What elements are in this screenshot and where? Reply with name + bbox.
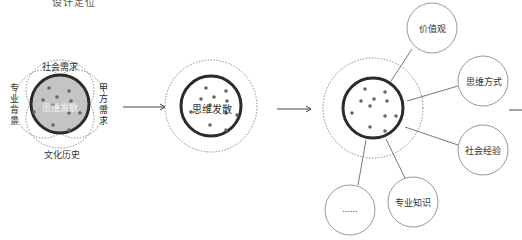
svg-text:......: ...... [342,205,357,214]
stage-3-knowledge-map: 价值观 思维方式 社会经验 专业知识 ...... [323,3,508,235]
stage-2-divergence: 思维发散 [165,60,257,152]
connector-values [391,49,412,81]
factor-label-bottom: 文化历史 [44,149,80,160]
factor-label-top: 社会需求 [42,61,78,72]
satellite-thinking-style: 思维方式 [458,56,508,106]
core-circle [343,78,403,138]
connector-social [405,127,458,145]
connector-thinking [407,86,458,101]
connector-professional [386,139,405,178]
arrow-1 [123,104,165,110]
svg-text:社会经验: 社会经验 [465,145,501,156]
svg-text:专业知识: 专业知识 [395,197,431,208]
svg-text:思维方式: 思维方式 [466,76,502,87]
connector-more [358,140,366,185]
core-label: 思维发散 [42,102,78,113]
core-label: 思维发散 [192,103,232,115]
stage-1-influences: 思维发散 社会需求 文化历史 [14,60,106,160]
svg-text:价值观: 价值观 [419,23,446,34]
satellite-social-experience: 社会经验 [458,125,508,175]
satellite-professional-knowledge: 专业知识 [388,177,438,227]
arrow-2 [277,106,311,112]
factor-label-right: 甲方需求 [99,83,108,126]
satellite-more: ...... [325,185,375,235]
diagram-canvas: 思维发散 社会需求 文化历史 专业背景 甲方需求 思维发散 [0,0,522,240]
satellite-values: 价值观 [407,3,457,53]
